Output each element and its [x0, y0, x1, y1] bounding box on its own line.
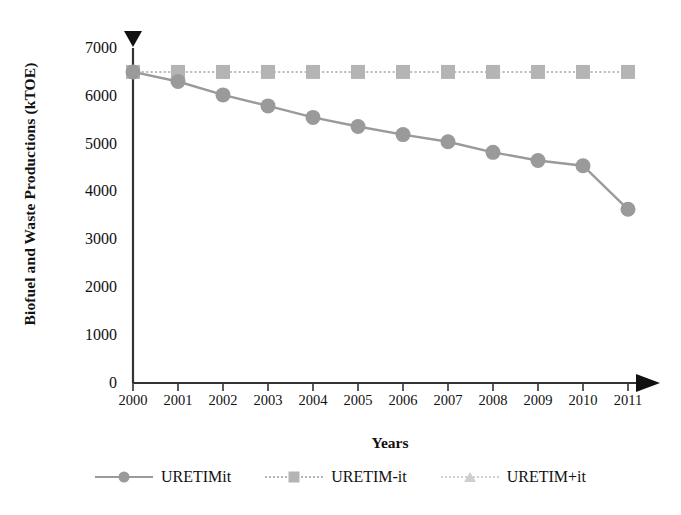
legend-item[interactable]: URETIMit: [95, 468, 231, 486]
circle-marker: [486, 145, 501, 160]
circle-marker: [118, 472, 129, 483]
legend-swatch: [95, 469, 153, 485]
legend-label: URETIM-it: [331, 468, 407, 486]
x-axis-ticks: [133, 383, 628, 391]
circle-marker: [396, 127, 411, 142]
circle-marker: [621, 202, 636, 217]
legend-label: URETIM+it: [507, 468, 586, 486]
x-tick-2011: 2011: [602, 392, 654, 409]
square-marker: [396, 65, 410, 79]
series-line: [133, 72, 628, 209]
circle-marker: [306, 110, 321, 125]
square-marker: [216, 65, 230, 79]
square-marker: [261, 65, 275, 79]
series-uretimit: [126, 64, 636, 216]
square-marker: [621, 65, 635, 79]
square-marker: [306, 65, 320, 79]
legend-swatch: [441, 469, 499, 485]
circle-marker: [261, 98, 276, 113]
y-axis-arrow-icon: [124, 31, 142, 47]
square-marker: [486, 65, 500, 79]
chart-figure: Biofuel and Waste Productions (kTOE) 700…: [0, 0, 681, 515]
circle-marker: [531, 153, 546, 168]
legend-label: URETIMit: [161, 468, 231, 486]
square-marker: [289, 472, 300, 483]
triangle-marker: [464, 472, 476, 482]
legend-item[interactable]: URETIM-it: [265, 468, 407, 486]
circle-marker: [216, 87, 231, 102]
legend-item[interactable]: URETIM+it: [441, 468, 586, 486]
circle-marker: [126, 64, 141, 79]
chart-legend: URETIMitURETIM-itURETIM+it: [0, 468, 681, 486]
x-axis-arrow-icon: [636, 374, 660, 392]
square-marker: [351, 65, 365, 79]
square-marker: [531, 65, 545, 79]
square-marker: [441, 65, 455, 79]
circle-marker: [576, 158, 591, 173]
series-uretim-minus-it: [126, 65, 635, 79]
square-marker: [576, 65, 590, 79]
legend-swatch: [265, 469, 323, 485]
circle-marker: [171, 74, 186, 89]
circle-marker: [441, 134, 456, 149]
circle-marker: [351, 119, 366, 134]
x-axis-title: Years: [130, 434, 650, 452]
